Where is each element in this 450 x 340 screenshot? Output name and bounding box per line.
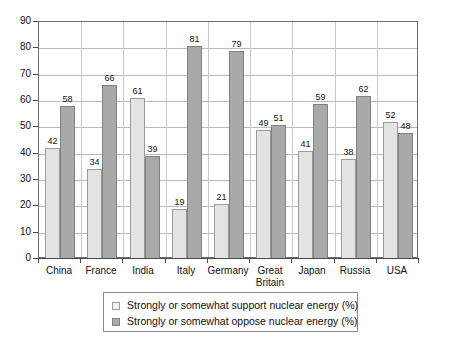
bar-oppose <box>313 104 328 259</box>
bar-support <box>130 98 145 259</box>
y-axis-tick-label: 70 <box>3 69 31 79</box>
category-separator <box>377 22 378 257</box>
x-axis-category-label: India <box>122 265 164 277</box>
y-axis-tick: 80 <box>0 42 31 52</box>
category-separator <box>250 22 251 257</box>
bar-support <box>341 159 356 259</box>
x-axis-category-label: Japan <box>291 265 333 277</box>
bar-oppose <box>145 156 160 259</box>
bar-value-label: 79 <box>225 40 248 49</box>
gridline <box>39 75 417 76</box>
bar-value-label: 58 <box>56 95 79 104</box>
x-axis-tick-mark <box>122 259 123 263</box>
y-axis-tick: 60 <box>0 95 31 105</box>
legend-label-oppose: Strongly or somewhat oppose nuclear ener… <box>127 316 358 327</box>
y-axis-tick: 70 <box>0 69 31 79</box>
bar-value-label: 48 <box>394 122 417 131</box>
bar-oppose <box>187 46 202 259</box>
y-axis-tick-label: 50 <box>3 121 31 131</box>
category-separator <box>81 22 82 257</box>
y-axis-tick: 0 <box>0 253 31 263</box>
y-axis-tick-label: 90 <box>3 16 31 26</box>
bar-oppose <box>60 106 75 259</box>
y-axis-tick-label: 30 <box>3 174 31 184</box>
bar-value-label: 66 <box>98 74 121 83</box>
x-axis-line <box>38 258 419 259</box>
x-axis-category-label: Italy <box>165 265 207 277</box>
bar-value-label: 51 <box>267 114 290 123</box>
y-axis-tick-label: 10 <box>3 227 31 237</box>
category-separator <box>166 22 167 257</box>
y-axis-tick-label: 0 <box>3 253 31 263</box>
bar-support <box>214 204 229 259</box>
x-axis-tick-mark <box>291 259 292 263</box>
x-axis-category-label: USA <box>376 265 418 277</box>
y-axis-tick-label: 60 <box>3 95 31 105</box>
legend-item-support: Strongly or somewhat support nuclear ene… <box>112 298 358 313</box>
y-axis-tick: 90 <box>0 16 31 26</box>
category-separator <box>123 22 124 257</box>
y-axis-tick: 40 <box>0 148 31 158</box>
y-axis-tick: 30 <box>0 174 31 184</box>
bar-value-label: 62 <box>352 85 375 94</box>
bar-oppose <box>229 51 244 259</box>
legend-label-support: Strongly or somewhat support nuclear ene… <box>127 300 358 311</box>
bar-support <box>383 122 398 259</box>
legend-swatch-support-icon <box>112 302 120 310</box>
bar-value-label: 59 <box>309 93 332 102</box>
x-axis-tick-mark <box>207 259 208 263</box>
x-axis-category-label: Great Britain <box>249 265 291 288</box>
bar-oppose <box>398 133 413 259</box>
category-separator <box>335 22 336 257</box>
bar-value-label: 52 <box>379 111 402 120</box>
bar-oppose <box>102 85 117 259</box>
legend: Strongly or somewhat support nuclear ene… <box>103 292 358 332</box>
x-axis-tick-mark <box>80 259 81 263</box>
legend-swatch-oppose-icon <box>112 318 120 326</box>
y-axis-tick-label: 40 <box>3 148 31 158</box>
x-axis-category-label: Russia <box>334 265 376 277</box>
bar-support <box>298 151 313 259</box>
x-axis-tick-mark <box>418 259 419 263</box>
x-axis-tick-mark <box>334 259 335 263</box>
bar-oppose <box>271 125 286 259</box>
bar-value-label: 39 <box>141 145 164 154</box>
x-axis-tick-mark <box>376 259 377 263</box>
category-separator <box>208 22 209 257</box>
bar-oppose <box>356 96 371 259</box>
x-axis-category-label: Germany <box>207 265 249 277</box>
y-axis-tick-label: 80 <box>3 42 31 52</box>
x-axis-tick-mark <box>165 259 166 263</box>
x-axis-tick-mark <box>249 259 250 263</box>
x-axis-category-label: France <box>80 265 122 277</box>
category-separator <box>292 22 293 257</box>
bar-support <box>87 169 102 259</box>
bar-support <box>45 148 60 259</box>
bar-support <box>256 130 271 259</box>
bar-support <box>172 209 187 259</box>
y-axis-tick: 50 <box>0 121 31 131</box>
x-axis-category-label: China <box>38 265 80 277</box>
y-axis-tick-label: 20 <box>3 200 31 210</box>
bar-value-label: 81 <box>183 35 206 44</box>
plot-area: 425834666139198121794951415938625248 <box>38 21 418 258</box>
bar-value-label: 61 <box>126 87 149 96</box>
y-axis-tick: 10 <box>0 227 31 237</box>
x-axis-tick-mark <box>38 259 39 263</box>
y-axis-tick: 20 <box>0 200 31 210</box>
legend-item-oppose: Strongly or somewhat oppose nuclear ener… <box>112 314 358 329</box>
bar-chart: 0102030405060708090 42583466613919812179… <box>0 0 450 340</box>
